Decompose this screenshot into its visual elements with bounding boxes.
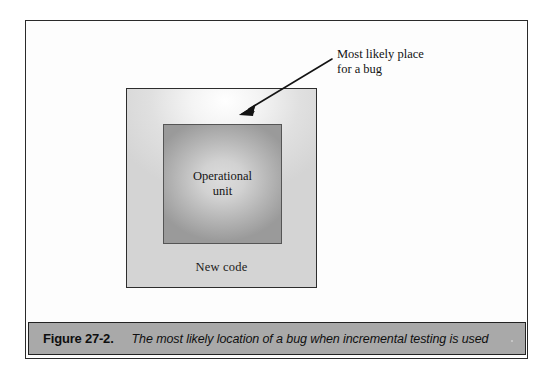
figure-page: Operational unit New code Most likely pl…	[0, 0, 551, 381]
new-code-box: Operational unit New code	[126, 88, 317, 288]
caption-text: The most likely location of a bug when i…	[132, 332, 489, 346]
annotation-label: Most likely place for a bug	[337, 47, 477, 78]
figure-caption-bar: Figure 27-2. The most likely location of…	[28, 322, 526, 355]
scan-speck	[511, 340, 513, 342]
caption-figure-number: Figure 27-2.	[43, 331, 114, 346]
operational-unit-box: Operational unit	[163, 124, 282, 244]
new-code-label: New code	[127, 260, 316, 275]
operational-unit-label: Operational unit	[193, 169, 252, 199]
